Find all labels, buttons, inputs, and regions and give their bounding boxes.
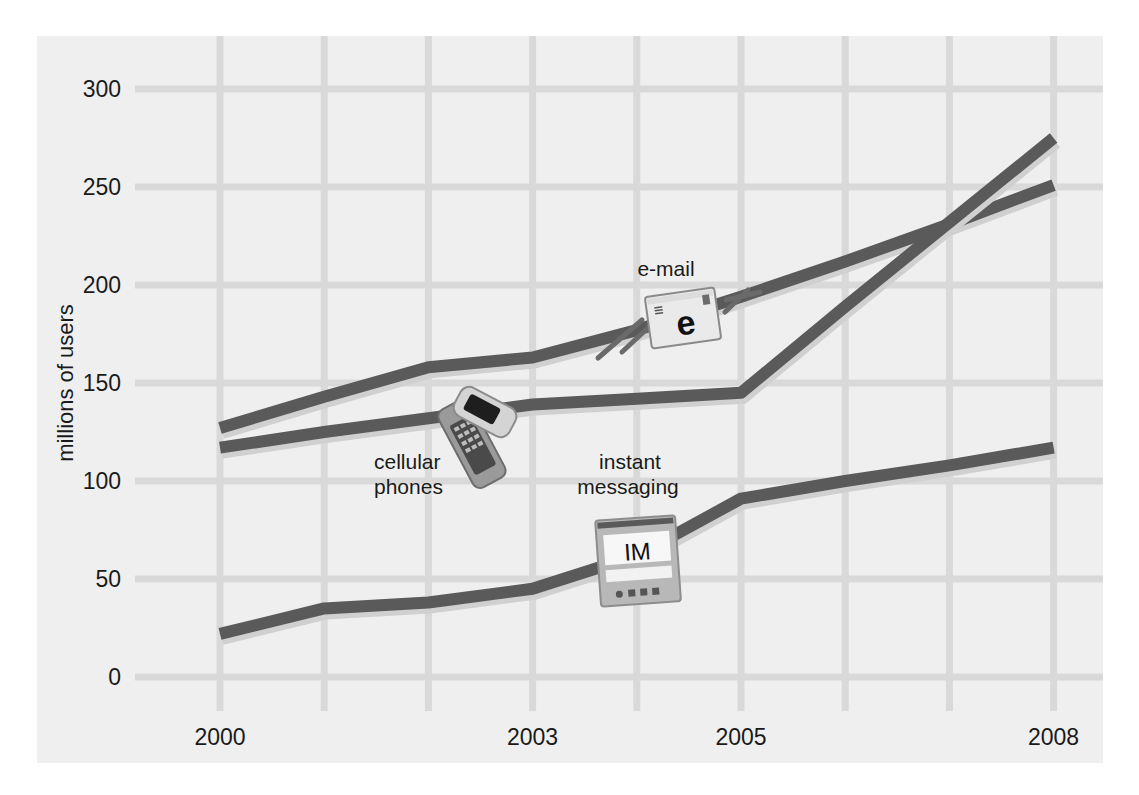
im-label-line1: instant [599,450,661,473]
x-tick-label: 2008 [1028,724,1079,750]
cellular-label-line2: phones [374,475,443,498]
im-icon-text: IM [623,537,651,566]
y-axis-title: millions of users [53,304,78,462]
x-tick-label: 2003 [507,724,558,750]
email-label: e-mail [637,257,694,280]
y-tick-label: 0 [108,664,121,690]
x-tick-label: 2000 [194,724,245,750]
y-tick-label: 50 [95,566,121,592]
y-tick-label: 150 [83,370,121,396]
x-tick-label: 2005 [715,724,766,750]
y-tick-label: 100 [83,468,121,494]
y-tick-label: 250 [83,174,121,200]
y-tick-label: 200 [83,272,121,298]
cellular-label-line1: cellular [374,450,441,473]
line-chart: 050100150200250300 2000200320052008 mill… [0,0,1139,795]
im-device-icon: IM [595,515,681,606]
y-tick-label: 300 [83,76,121,102]
im-label-line2: messaging [577,475,679,498]
